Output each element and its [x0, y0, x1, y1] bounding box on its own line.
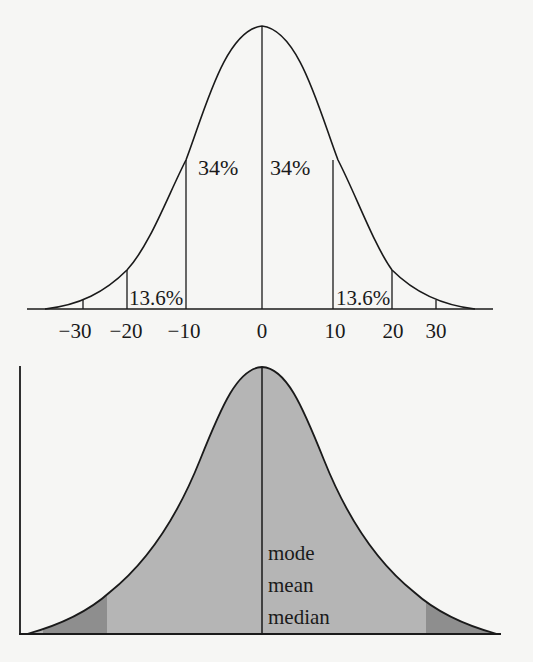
tick-10: 10 — [325, 319, 346, 343]
tick-20: 20 — [383, 319, 404, 343]
label-13-6-right: 13.6% — [336, 286, 390, 310]
label-median: median — [268, 605, 330, 629]
left-tail-fill — [43, 360, 107, 635]
right-tail-fill — [426, 360, 490, 635]
label-mode: mode — [268, 541, 315, 565]
tick-30: 30 — [426, 319, 447, 343]
tick-minus-20: −20 — [110, 319, 143, 343]
bell-curve — [45, 26, 475, 309]
label-mean: mean — [268, 573, 314, 597]
label-34-right: 34% — [270, 155, 310, 180]
label-34-left: 34% — [198, 155, 238, 180]
top-normal-chart: 34% 34% 13.6% 13.6% −30 −20 −10 0 10 20 … — [27, 26, 493, 343]
x-tick-labels: −30 −20 −10 0 10 20 30 — [59, 319, 447, 343]
tick-0: 0 — [257, 319, 268, 343]
tick-minus-30: −30 — [59, 319, 92, 343]
label-13-6-left: 13.6% — [129, 286, 183, 310]
body-fill — [20, 360, 510, 635]
tick-minus-10: −10 — [168, 319, 201, 343]
bottom-normal-chart: mode mean median — [19, 360, 510, 635]
figure: 34% 34% 13.6% 13.6% −30 −20 −10 0 10 20 … — [0, 0, 533, 662]
